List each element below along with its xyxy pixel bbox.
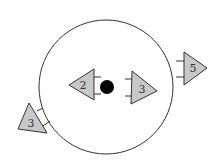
- triangle-inner-left: 2: [69, 69, 101, 100]
- triangle-outer-bottom-left: 3: [18, 103, 50, 133]
- center-dot: [100, 80, 114, 94]
- triangle-label: 2: [80, 79, 87, 92]
- diagram-svg: 2 3 5 3: [0, 0, 220, 166]
- triangle-outer-right: 5: [176, 52, 207, 85]
- triangle-inner-right: 3: [125, 71, 157, 104]
- triangle-label: 3: [28, 117, 35, 130]
- diagram-canvas: 2 3 5 3: [0, 0, 220, 166]
- triangle-label: 3: [139, 83, 146, 96]
- triangle-label: 5: [190, 62, 197, 75]
